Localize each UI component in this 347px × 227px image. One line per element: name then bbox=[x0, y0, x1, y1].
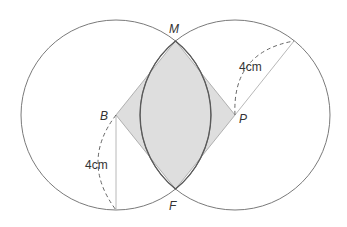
measure-label-left: 4cm bbox=[85, 158, 108, 172]
label-p: P bbox=[239, 112, 247, 126]
measure-label-right: 4cm bbox=[239, 60, 262, 74]
radius-line-p bbox=[235, 41, 294, 115]
shaded-rhombus-bmpf bbox=[116, 41, 235, 189]
geometry-diagram: M F B P 4cm 4cm bbox=[0, 0, 347, 227]
label-f: F bbox=[169, 199, 177, 213]
label-b: B bbox=[100, 109, 108, 123]
label-m: M bbox=[169, 22, 179, 36]
